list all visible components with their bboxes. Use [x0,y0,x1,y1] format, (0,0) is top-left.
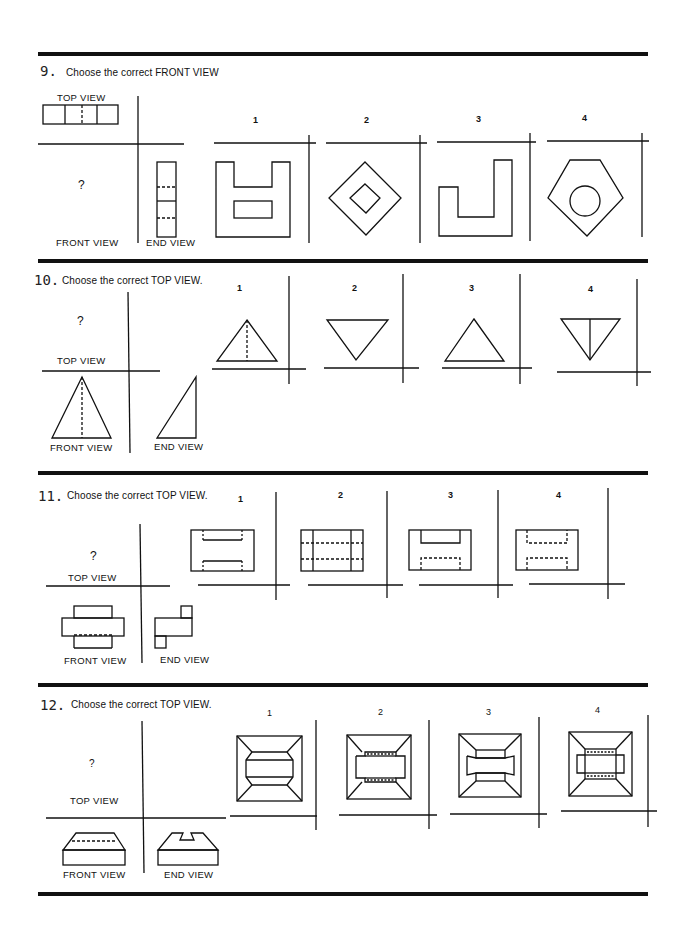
p9-option-2-drawing [329,162,401,235]
p12-given-views [46,721,226,873]
p9-option-1-drawing [216,162,290,237]
p11-front-view-drawing [62,606,124,648]
p10-option-frames [212,274,651,386]
p10-option-1-drawing [217,320,277,361]
p12-front-view-drawing [63,833,125,865]
p12-option-1-drawing [237,736,302,801]
p11-option-4-drawing [516,530,578,570]
p9-option-frames [214,133,649,243]
p9-option-4-drawing [548,160,623,236]
p11-given-views [46,524,192,663]
p12-option-4-drawing [569,732,632,796]
p11-option-2-drawing [301,530,363,571]
p9-given-views [38,96,184,243]
p10-option-4-drawing [561,319,620,360]
p10-option-2-drawing [327,320,388,360]
p11-end-view-drawing [155,606,192,648]
p11-option-frames [198,488,625,600]
p9-top-view-drawing [43,105,118,124]
p10-front-view-drawing [52,377,111,438]
p10-option-3-drawing [445,319,504,361]
p11-option-3-drawing [409,530,471,570]
p12-option-3-drawing [459,734,521,797]
p10-end-view-drawing [157,377,196,438]
p9-option-3-drawing [439,160,512,236]
p12-end-view-drawing [158,833,218,865]
p12-option-2-drawing [347,735,411,799]
p10-given-views [42,292,196,453]
p9-end-view-drawing [157,162,176,237]
technical-drawings [0,0,690,930]
p11-option-1-drawing [191,530,254,571]
